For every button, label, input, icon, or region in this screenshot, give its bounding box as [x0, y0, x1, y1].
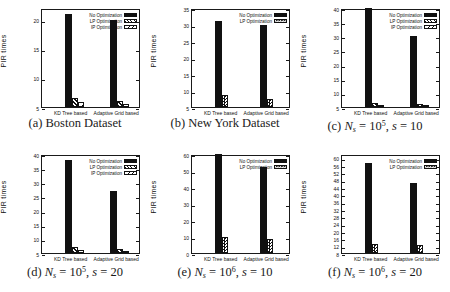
- bar-no-optimization: [215, 154, 222, 253]
- bar-ip-optimization: [78, 102, 84, 107]
- y-tick-mark-right: [436, 95, 439, 96]
- legend-swatch-diag-light: [424, 25, 437, 29]
- y-tick-label: 60: [323, 157, 339, 162]
- legend-row: LP Optimization: [239, 164, 287, 170]
- y-tick-label: 36: [323, 201, 339, 206]
- caption-math-eq: = 105: [56, 265, 86, 279]
- y-tick-mark-right: [436, 196, 439, 197]
- y-tick-label: 20: [23, 210, 39, 215]
- y-tick-mark-right: [286, 156, 289, 157]
- bar-no-optimization: [260, 167, 267, 253]
- plot-area: 510152025303540No OptimizationLP Optimiz…: [341, 9, 440, 108]
- y-tick-mark: [342, 233, 345, 234]
- y-tick-mark-right: [436, 10, 439, 11]
- caption-text: Boston Dataset: [45, 116, 121, 130]
- y-tick-mark-right: [436, 81, 439, 82]
- y-tick-mark-right: [286, 173, 289, 174]
- y-tick-label: 10: [173, 90, 189, 95]
- chart-panel-a: PIR times5101520No OptimizationLP Optimi…: [0, 0, 150, 146]
- plot-area: 812162024283236404448525660No Optimizati…: [341, 155, 440, 254]
- caption-math-N: Ns: [45, 265, 56, 279]
- caption-prefix: (e): [177, 265, 194, 279]
- y-tick-mark: [192, 222, 195, 223]
- y-tick-mark-right: [436, 218, 439, 219]
- legend-label: No Optimization: [239, 13, 272, 18]
- y-tick-mark: [342, 24, 345, 25]
- bar-no-optimization: [365, 8, 372, 107]
- y-tick-mark-right: [286, 239, 289, 240]
- y-tick-mark: [192, 156, 195, 157]
- y-tick-label: 15: [323, 78, 339, 83]
- y-tick-mark-right: [286, 27, 289, 28]
- legend-swatch-solid: [124, 159, 137, 163]
- y-tick-mark: [342, 189, 345, 190]
- caption-prefix: (d): [27, 265, 45, 279]
- y-tick-label: 10: [173, 236, 189, 241]
- legend-swatch-solid: [424, 13, 437, 17]
- legend-row: LP Optimization: [239, 18, 287, 24]
- chart-panel-e: PIR times0102030405060No OptimizationLP …: [150, 146, 300, 292]
- y-tick-label: 35: [173, 8, 189, 13]
- y-tick-mark: [192, 255, 195, 256]
- chart-caption: (a) Boston Dataset: [0, 116, 150, 131]
- caption-prefix: (c): [327, 119, 344, 133]
- bar-no-optimization: [215, 21, 222, 107]
- y-tick-mark: [342, 67, 345, 68]
- y-tick-mark-right: [136, 241, 139, 242]
- y-axis-label: PIR times: [300, 16, 310, 86]
- y-tick-label: 52: [323, 172, 339, 177]
- y-tick-mark: [342, 196, 345, 197]
- y-tick-mark-right: [286, 43, 289, 44]
- y-tick-mark: [192, 189, 195, 190]
- y-tick-mark-right: [136, 184, 139, 185]
- y-tick-label: 20: [173, 220, 189, 225]
- caption-prefix: (a): [28, 116, 45, 130]
- y-axis-label: PIR times: [0, 162, 10, 232]
- caption-math-sval: = 20: [396, 265, 422, 279]
- legend-swatch-checker: [274, 19, 287, 23]
- legend-swatch-solid: [274, 159, 287, 163]
- y-tick-label: 44: [323, 187, 339, 192]
- legend-swatch-solid: [424, 159, 437, 163]
- legend-swatch-diag: [124, 19, 137, 23]
- y-tick-mark: [192, 60, 195, 61]
- caption-math-N: Ns: [194, 265, 205, 279]
- legend-swatch-checker: [424, 165, 437, 169]
- chart-caption: (d) Ns = 105, s = 20: [0, 262, 150, 283]
- plot-area: 510152025303540No OptimizationLP Optimiz…: [41, 155, 140, 254]
- bar-ip-optimization: [423, 105, 429, 107]
- y-tick-mark-right: [436, 233, 439, 234]
- legend-label: LP Optimization: [240, 165, 272, 170]
- y-tick-mark-right: [286, 10, 289, 11]
- y-tick-mark: [342, 167, 345, 168]
- y-tick-label: 40: [173, 187, 189, 192]
- legend-swatch-solid: [124, 13, 137, 17]
- y-tick-mark-right: [136, 213, 139, 214]
- y-tick-label: 50: [173, 170, 189, 175]
- legend-label: No Optimization: [389, 159, 422, 164]
- chart-panel-c: PIR times510152025303540No OptimizationL…: [300, 0, 450, 146]
- bar-lp-optimization: [222, 237, 228, 253]
- legend-label: IP Optimization: [91, 171, 122, 176]
- legend: No OptimizationLP Optimization: [389, 158, 437, 170]
- y-tick-label: 10: [323, 92, 339, 97]
- chart-caption: (c) Ns = 105, s = 10: [300, 116, 450, 137]
- y-tick-mark: [342, 240, 345, 241]
- legend-swatch-diag-light: [124, 25, 137, 29]
- legend-label: No Optimization: [389, 13, 422, 18]
- y-axis-label: PIR times: [0, 16, 10, 86]
- y-tick-label: 28: [323, 216, 339, 221]
- y-tick-label: 30: [173, 203, 189, 208]
- caption-math-eq: = 105: [356, 119, 386, 133]
- legend-label: No Optimization: [89, 13, 122, 18]
- caption-prefix: (f): [328, 265, 344, 279]
- legend: No OptimizationLP OptimizationIP Optimiz…: [89, 12, 137, 30]
- y-tick-mark: [42, 51, 45, 52]
- chart-caption: (b) New York Dataset: [150, 116, 300, 131]
- plot-area: 5101520253035No OptimizationLP Optimizat…: [191, 9, 290, 108]
- plot-area: 0102030405060No OptimizationLP Optimizat…: [191, 155, 290, 254]
- y-tick-mark: [42, 109, 45, 110]
- y-tick-label: 20: [323, 231, 339, 236]
- y-tick-mark-right: [286, 222, 289, 223]
- bar-lp-optimization: [222, 95, 228, 107]
